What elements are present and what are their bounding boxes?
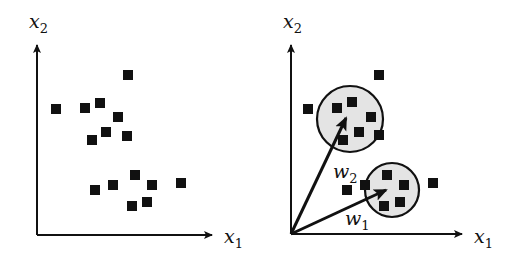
- data-point: [366, 112, 376, 122]
- x-axis-label: x1: [224, 225, 243, 251]
- data-point: [122, 131, 132, 141]
- data-point: [123, 70, 133, 80]
- data-point: [382, 170, 392, 180]
- data-point: [342, 185, 352, 195]
- diagram-canvas: x2x1 x2x1w2w1: [0, 0, 513, 256]
- left-scatter-panel: x2x1: [29, 10, 243, 251]
- data-point: [95, 98, 105, 108]
- data-point: [303, 104, 313, 114]
- data-point: [80, 103, 90, 113]
- weight-label-w2: w2: [333, 160, 358, 186]
- data-point: [108, 180, 118, 190]
- data-point: [332, 103, 342, 113]
- data-point: [130, 170, 140, 180]
- data-point: [374, 70, 384, 80]
- data-point: [428, 178, 438, 188]
- y-axis-label: x2: [29, 10, 48, 36]
- data-point: [147, 180, 157, 190]
- data-point: [360, 180, 370, 190]
- data-point: [354, 127, 364, 137]
- data-point: [338, 135, 348, 145]
- data-point: [395, 197, 405, 207]
- x-axis-label: x1: [474, 225, 493, 251]
- right-cluster-panel: x2x1w2w1: [283, 10, 493, 251]
- data-point: [379, 201, 389, 211]
- data-point: [176, 178, 186, 188]
- data-point: [90, 185, 100, 195]
- data-point: [142, 197, 152, 207]
- data-point: [101, 127, 111, 137]
- data-point: [113, 112, 123, 122]
- data-point: [87, 135, 97, 145]
- data-point: [399, 180, 409, 190]
- weight-label-w1: w1: [345, 207, 370, 233]
- y-axis-label: x2: [283, 10, 302, 36]
- data-point: [347, 97, 357, 107]
- data-point: [127, 201, 137, 211]
- weight-vector-w1: [291, 190, 386, 234]
- data-point: [374, 130, 384, 140]
- data-point: [51, 104, 61, 114]
